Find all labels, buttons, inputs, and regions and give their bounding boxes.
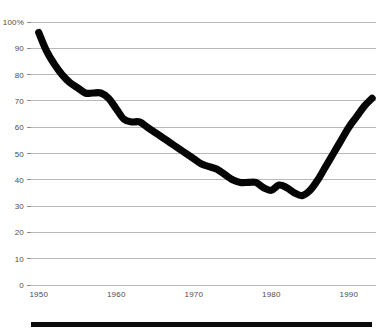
y-tick-label-100: 100% bbox=[3, 18, 24, 27]
y-tick-label-50: 50 bbox=[15, 150, 25, 159]
y-tick-label-20: 20 bbox=[15, 228, 25, 237]
y-tick-label-70: 70 bbox=[15, 97, 25, 106]
y-tick-label-30: 30 bbox=[15, 202, 25, 211]
y-tick-label-90: 90 bbox=[15, 44, 25, 53]
bottom-rule-bar bbox=[31, 322, 372, 327]
x-tick-label-1950: 1950 bbox=[29, 290, 48, 299]
chart-plot-area: 0102030405060708090100% 1950196019701980… bbox=[0, 0, 388, 334]
y-tick-label-0: 0 bbox=[19, 281, 24, 290]
x-tick-label-1970: 1970 bbox=[185, 290, 204, 299]
line-chart-figure: 0102030405060708090100% 1950196019701980… bbox=[0, 0, 388, 334]
y-axis-tick-labels: 0102030405060708090100% bbox=[3, 18, 25, 290]
y-tick-label-60: 60 bbox=[15, 123, 25, 132]
x-tick-label-1980: 1980 bbox=[262, 290, 281, 299]
gridlines-group bbox=[27, 22, 376, 285]
y-tick-label-40: 40 bbox=[15, 176, 25, 185]
x-tick-label-1960: 1960 bbox=[107, 290, 126, 299]
x-tick-label-1990: 1990 bbox=[340, 290, 359, 299]
y-tick-label-80: 80 bbox=[15, 71, 25, 80]
series-line-share bbox=[39, 33, 372, 196]
x-axis-tick-labels: 19501960197019801990 bbox=[29, 290, 358, 299]
y-tick-label-10: 10 bbox=[15, 255, 25, 264]
